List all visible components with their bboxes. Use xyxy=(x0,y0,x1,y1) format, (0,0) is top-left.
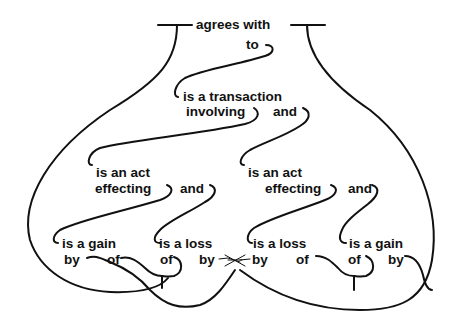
transaction-label-line1: is a transaction xyxy=(183,89,282,104)
right-by-connector xyxy=(240,259,250,260)
leaf-2-head: is a loss xyxy=(159,236,212,251)
leaf-3-role1: by xyxy=(252,252,268,267)
leaf-1-head: is a gain xyxy=(62,236,116,251)
leaf-2-role2: by xyxy=(199,252,215,267)
transaction-label-line2: involving xyxy=(186,104,245,119)
leaf-3-role2: of xyxy=(296,252,309,267)
leaf-1-role1: by xyxy=(64,252,80,267)
leaf-4-role1: of xyxy=(348,252,361,267)
act-right-line1: is an act xyxy=(248,165,302,180)
leaf-4-head: is a gain xyxy=(349,236,403,251)
leaf-2-role1: of xyxy=(160,252,173,267)
leaf-4-role2: by xyxy=(388,252,404,267)
act-left-and-label: and xyxy=(180,181,204,196)
leaf-3-head: is a loss xyxy=(253,236,306,251)
act-left-line1: is an act xyxy=(96,165,150,180)
semantic-network-diagram: agrees with to is a transaction involvin… xyxy=(0,0,451,326)
leaf-1-role2: of xyxy=(107,252,120,267)
root-sub-label: to xyxy=(246,37,259,52)
act-left-line2: effecting xyxy=(95,181,151,196)
act-right-and-label: and xyxy=(348,181,372,196)
act-right-line2: effecting xyxy=(265,181,321,196)
root-label: agrees with xyxy=(196,17,270,32)
gain-of-connector xyxy=(121,258,162,276)
outer-left-curve xyxy=(28,25,177,292)
connector-lines xyxy=(0,0,451,326)
transaction-and-label: and xyxy=(273,104,297,119)
cross-mark xyxy=(225,255,245,266)
